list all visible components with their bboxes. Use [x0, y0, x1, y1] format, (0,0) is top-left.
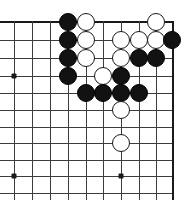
black-stone	[77, 84, 95, 102]
white-stone	[77, 49, 95, 67]
black-stone	[163, 31, 181, 49]
white-stone	[112, 134, 130, 152]
black-stone	[59, 31, 77, 49]
white-stone	[112, 31, 130, 49]
go-board	[0, 0, 196, 200]
black-stone	[59, 67, 77, 85]
white-stone	[112, 49, 130, 67]
black-stone	[112, 67, 130, 85]
white-stone	[77, 31, 95, 49]
white-stone	[147, 13, 165, 31]
black-stone	[59, 49, 77, 67]
go-diagram-figure	[0, 0, 196, 200]
star-point	[12, 74, 17, 79]
grid-line-vertical	[32, 21, 33, 200]
star-point	[12, 174, 17, 179]
grid-line-vertical	[103, 21, 104, 200]
black-stone	[112, 84, 130, 102]
black-stone	[94, 84, 112, 102]
white-stone	[94, 67, 112, 85]
black-stone	[130, 84, 148, 102]
white-stone	[112, 101, 130, 119]
black-stone	[130, 49, 148, 67]
star-point	[119, 174, 124, 179]
black-stone	[147, 49, 165, 67]
white-stone	[130, 31, 148, 49]
grid-line-vertical	[50, 21, 51, 200]
white-stone	[77, 13, 95, 31]
black-stone	[59, 13, 77, 31]
